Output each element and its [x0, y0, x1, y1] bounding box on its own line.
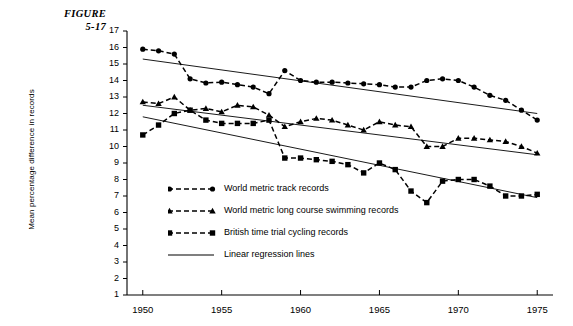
- regression-line: [143, 105, 537, 155]
- legend-marker-3: [168, 230, 172, 235]
- series-marker: [298, 155, 303, 160]
- x-tick-label: 1965: [359, 304, 399, 315]
- series-marker: [472, 85, 477, 90]
- series-marker: [297, 119, 303, 125]
- regression-lines-group: [143, 59, 537, 198]
- regression-line: [143, 59, 537, 113]
- y-tick-label: 11: [91, 124, 119, 134]
- y-tick-label: 5: [91, 223, 119, 233]
- legend-label-3: British time trial cycling records: [224, 227, 348, 237]
- series-marker: [376, 119, 382, 125]
- y-tick-label: 6: [91, 207, 119, 217]
- x-tick-label: 1970: [438, 304, 478, 315]
- series-marker: [487, 93, 492, 98]
- series-marker: [235, 121, 240, 126]
- legend-swatches: [168, 181, 238, 281]
- series-marker: [535, 192, 540, 197]
- legend-label-1: World metric track records: [224, 183, 329, 193]
- series-marker: [424, 200, 429, 205]
- y-tick-label: 2: [91, 273, 119, 283]
- x-tick-label: 1950: [123, 304, 163, 315]
- series-marker: [251, 121, 256, 126]
- legend-marker-1: [210, 186, 215, 191]
- y-tick-label: 13: [91, 91, 119, 101]
- legend-marker-3: [210, 230, 215, 235]
- series-marker: [203, 117, 208, 122]
- series-marker: [518, 143, 524, 149]
- legend-marker-1: [168, 186, 172, 191]
- x-tick-label: 1960: [281, 304, 321, 315]
- series-marker: [140, 47, 145, 52]
- series-marker: [266, 91, 271, 96]
- series-marker: [440, 76, 445, 81]
- legend-label-2: World metric long course swimming record…: [224, 205, 398, 215]
- series-marker: [345, 162, 350, 167]
- series-marker: [156, 122, 161, 127]
- chart-plot-area: Mean percentage difference in records 12…: [0, 0, 573, 326]
- series-marker: [503, 98, 508, 103]
- data-series-1: [140, 47, 540, 123]
- series-marker: [219, 80, 224, 85]
- series-marker: [314, 157, 319, 162]
- series-marker: [440, 178, 445, 183]
- series-marker: [235, 82, 240, 87]
- y-tick-label: 9: [91, 157, 119, 167]
- series-marker: [345, 80, 350, 85]
- y-tick-label: 17: [91, 25, 119, 35]
- series-marker: [393, 85, 398, 90]
- series-marker: [188, 76, 193, 81]
- records-trend-line-chart: [0, 0, 573, 326]
- y-tick-label: 16: [91, 42, 119, 52]
- series-marker: [535, 118, 540, 123]
- series-marker: [519, 108, 524, 113]
- series-marker: [313, 115, 319, 121]
- series-marker: [329, 159, 334, 164]
- y-tick-label: 4: [91, 240, 119, 250]
- series-marker: [298, 78, 303, 83]
- series-marker: [203, 80, 208, 85]
- y-tick-label: 3: [91, 256, 119, 266]
- y-axis-title: Mean percentage difference in records: [27, 45, 36, 275]
- series-marker: [266, 117, 271, 122]
- y-tick-label: 8: [91, 174, 119, 184]
- series-marker: [219, 121, 224, 126]
- series-marker: [456, 78, 461, 83]
- series-marker: [361, 170, 366, 175]
- series-marker: [471, 177, 476, 182]
- series-marker: [503, 193, 508, 198]
- series-marker: [393, 167, 398, 172]
- y-tick-label: 15: [91, 58, 119, 68]
- series-marker: [408, 85, 413, 90]
- series-marker: [172, 52, 177, 57]
- series-marker: [187, 108, 192, 113]
- series-marker: [377, 160, 382, 165]
- x-tick-label: 1975: [517, 304, 557, 315]
- series-marker: [502, 138, 508, 144]
- y-tick-label: 1: [91, 289, 119, 299]
- series-marker: [282, 155, 287, 160]
- series-marker: [266, 112, 272, 118]
- x-tick-label: 1955: [202, 304, 242, 315]
- series-marker: [408, 188, 413, 193]
- series-marker: [361, 81, 366, 86]
- series-marker: [251, 85, 256, 90]
- y-tick-label: 12: [91, 108, 119, 118]
- series-marker: [140, 132, 145, 137]
- series-marker: [519, 193, 524, 198]
- series-marker: [330, 80, 335, 85]
- series-marker: [377, 82, 382, 87]
- y-tick-label: 10: [91, 141, 119, 151]
- y-tick-label: 14: [91, 75, 119, 85]
- y-tick-label: 7: [91, 190, 119, 200]
- series-marker: [282, 68, 287, 73]
- series-marker: [487, 183, 492, 188]
- data-series-2: [140, 94, 541, 156]
- series-marker: [424, 78, 429, 83]
- series-marker: [171, 94, 177, 100]
- series-marker: [314, 80, 319, 85]
- series-marker: [172, 111, 177, 116]
- series-marker: [456, 177, 461, 182]
- series-marker: [156, 48, 161, 53]
